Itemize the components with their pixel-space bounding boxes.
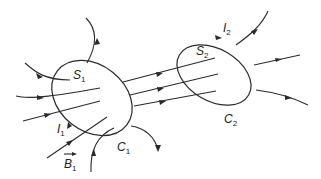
current-arrow-i2 [215, 35, 222, 40]
label-i1: I1 [57, 122, 65, 138]
label-b1: B1 [64, 157, 77, 173]
arrowhead [66, 140, 73, 146]
flux-diagram: S1 I1 B1 C1 S2 I2 C2 [0, 0, 321, 179]
loop-c1 [37, 45, 147, 151]
field-line-top-right [236, 11, 268, 45]
field-line-bottom-right [131, 126, 158, 150]
field-line-diagonal [47, 117, 107, 158]
label-s1: S1 [73, 68, 86, 84]
arrowhead [37, 95, 44, 100]
label-c2: C2 [224, 112, 238, 128]
arrowhead [156, 72, 163, 77]
label-i2: I2 [223, 21, 231, 37]
label-c1: C1 [117, 140, 131, 156]
field-line-lower-left [23, 101, 100, 121]
field-line-top-escape [86, 18, 95, 63]
label-s2: S2 [196, 44, 209, 60]
arrowhead [72, 152, 77, 156]
field-line-left [16, 88, 100, 97]
arrowhead [157, 87, 164, 92]
field-line-right-lower [256, 90, 308, 105]
arrowhead [155, 145, 161, 152]
